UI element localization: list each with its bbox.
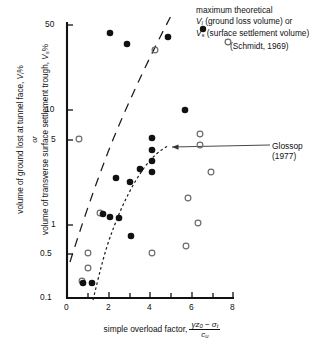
- data-point-open: [183, 243, 189, 249]
- y-axis-label-or: or: [28, 19, 40, 259]
- figure-container: 50 10 5 1 0.5 0.1 0 2 4 6 8 volume of gr…: [0, 0, 324, 349]
- xtick-label-2: 2: [106, 302, 111, 312]
- data-point-open: [197, 131, 203, 137]
- glossop-curve: [93, 146, 168, 300]
- x-axis-formula: γz0 − σtcu: [189, 320, 220, 339]
- xtick-label-0: 0: [64, 302, 69, 312]
- data-point-open: [195, 220, 201, 226]
- xtick-label-6: 6: [189, 302, 194, 312]
- legend-line-3: Vs (surface settlement volume): [196, 28, 309, 41]
- chart-legend: maximum theoretical Vl (ground loss volu…: [196, 5, 309, 52]
- data-point-filled: [107, 214, 114, 221]
- data-point-filled: [128, 233, 135, 240]
- data-point-open: [185, 195, 191, 201]
- y-axis-Vs-subscript: s: [44, 51, 50, 54]
- y-axis-label: volume of ground lost at tunnel face, Vl…: [15, 19, 54, 259]
- data-point-filled: [149, 169, 156, 176]
- y-axis-V-subscript: l: [19, 73, 25, 74]
- data-point-open: [149, 250, 155, 256]
- data-point-filled: [113, 175, 120, 182]
- y-axis-label-line3: volume of transverse surface settlement …: [40, 19, 54, 259]
- data-point-open: [85, 250, 91, 256]
- data-point-filled: [182, 107, 189, 114]
- data-point-open: [76, 136, 82, 142]
- data-point-filled: [80, 280, 87, 287]
- series-filled-circles: [80, 30, 189, 287]
- data-point-filled: [124, 41, 131, 48]
- data-point-open: [85, 265, 91, 271]
- data-point-filled: [137, 166, 144, 173]
- y-axis-V-symbol: V: [16, 74, 25, 79]
- data-point-filled: [149, 158, 156, 165]
- x-axis-label-text: simple overload factor,: [104, 324, 188, 334]
- data-point-filled: [89, 280, 96, 287]
- data-point-open: [208, 169, 214, 175]
- glossop-callout-label: Glossop (1977): [272, 141, 324, 161]
- data-point-filled: [149, 147, 156, 154]
- data-point-filled: [100, 211, 107, 218]
- series-open-circles: [76, 47, 214, 284]
- y-axis-Vs-symbol: V: [41, 54, 50, 59]
- data-point-filled: [127, 179, 134, 186]
- legend-line-2: Vl (ground loss volume) or: [196, 16, 309, 29]
- maximum-theoretical-curve: [70, 14, 172, 262]
- xtick-label-8: 8: [230, 302, 235, 312]
- formula-denominator: cu: [189, 329, 220, 339]
- xtick-label-4: 4: [147, 302, 152, 312]
- data-point-open: [197, 142, 203, 148]
- legend-line-1: maximum theoretical: [196, 5, 309, 16]
- data-point-filled: [149, 135, 156, 142]
- legend-line-4: (Schmidt, 1969): [196, 41, 309, 52]
- data-point-filled: [107, 30, 114, 37]
- formula-numerator: γz0 − σt: [189, 320, 220, 329]
- glossop-leader-line: [172, 144, 270, 149]
- data-point-filled: [116, 215, 123, 222]
- data-point-filled: [165, 34, 172, 41]
- x-axis-label: simple overload factor,γz0 − σtcu: [0, 320, 324, 339]
- y-axis-label-line1: volume of ground lost at tunnel face, Vl…: [15, 19, 29, 259]
- ytick-label-0.1: 0.1: [40, 292, 52, 302]
